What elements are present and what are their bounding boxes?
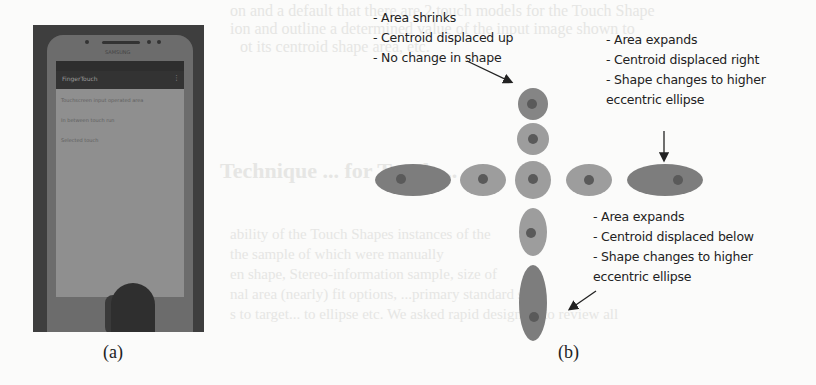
annotation-line: - Shape changes to higher [593, 247, 754, 267]
app-title: FingerTouch [62, 75, 98, 82]
front-sensor-icon [85, 40, 89, 44]
status-bar [56, 61, 184, 71]
finger [111, 283, 155, 332]
annotation-up: - Area shrinks - Centroid displaced up -… [373, 8, 513, 68]
earpiece-speaker [102, 41, 140, 44]
annotation-line: - Area expands [606, 30, 766, 50]
annotation-line: eccentric ellipse [593, 267, 754, 287]
figure-b-caption: (b) [558, 342, 579, 363]
front-sensor-icon [157, 40, 161, 44]
centroid-dot [478, 174, 488, 184]
annotation-line: - No change in shape [373, 48, 513, 68]
annotation-line: - Centroid displaced up [373, 28, 513, 48]
centroid-dot [528, 174, 538, 184]
annotation-line: - Centroid displaced below [593, 227, 754, 247]
annotation-right: - Area expands - Centroid displaced righ… [606, 30, 766, 110]
centroid-dot [584, 175, 594, 185]
centroid-dot [527, 99, 537, 109]
centroid-dot [673, 175, 683, 185]
screen-text-line: Selected touch [61, 137, 98, 143]
annotation-line: - Area expands [593, 207, 754, 227]
centroid-dot [396, 174, 406, 184]
phone-screen: Touchscreen input operated area In betwe… [56, 89, 184, 297]
annotation-down: - Area expands - Centroid displaced belo… [593, 207, 754, 287]
background-text-line: ability of the Touch Shapes instances of… [230, 226, 491, 243]
centroid-dot [529, 312, 539, 322]
background-text-line: the sample of which were manually [230, 246, 444, 263]
background-text-line: s to target... to ellipse etc. We asked … [230, 306, 618, 323]
phone-brand: SAMSUNG [105, 49, 130, 55]
touch-shape-left-2 [375, 164, 451, 196]
background-text-line: en shape, Stereo-information sample, siz… [230, 266, 497, 283]
screen-text-line: In between touch run [61, 117, 115, 123]
touch-shape-right-2 [627, 164, 703, 196]
figure-a-caption: (a) [103, 342, 123, 363]
overflow-menu-icon: ⋮ [173, 74, 180, 82]
figure-a-photo: SAMSUNG FingerTouch ⋮ Touchscreen input … [33, 25, 204, 332]
centroid-dot [526, 228, 536, 238]
screen-text-line: Touchscreen input operated area [61, 97, 143, 103]
annotation-line: - Centroid displaced right [606, 50, 766, 70]
annotation-line: - Area shrinks [373, 8, 513, 28]
app-bar: FingerTouch ⋮ [56, 71, 184, 89]
annotation-line: eccentric ellipse [606, 90, 766, 110]
front-camera-icon [147, 40, 151, 44]
background-text-line: nal area (nearly) fit options, ...primar… [230, 286, 531, 303]
touch-shape-down-2 [519, 265, 547, 341]
centroid-dot [528, 134, 538, 144]
annotation-line: - Shape changes to higher [606, 70, 766, 90]
arrow-to-down-shape [570, 291, 596, 309]
